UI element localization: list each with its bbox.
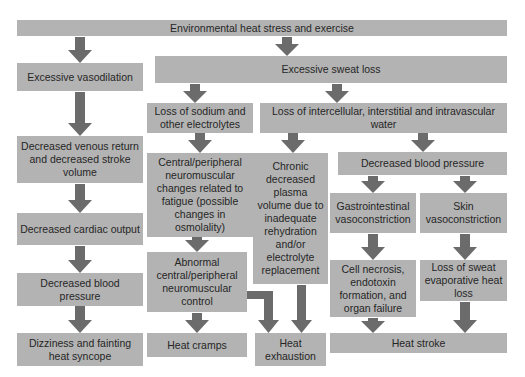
arrow-down-icon — [185, 313, 209, 333]
node-heat-stroke: Heat stroke — [330, 333, 507, 353]
arrow-down-icon — [453, 176, 477, 193]
arrow-down-icon — [453, 234, 477, 260]
arrow-down-icon — [411, 133, 435, 152]
arrow-down-icon — [281, 133, 305, 153]
arrow-down-icon — [68, 246, 92, 273]
node-heat-syncope: Dizziness and fainting heat syncope — [17, 333, 143, 366]
arrow-down-icon — [361, 318, 385, 333]
arrow-down-icon — [68, 184, 92, 213]
node-decreased-cardiac-output: Decreased cardiac output — [17, 213, 143, 245]
node-loss-of-water: Loss of intercellular, interstitial and … — [260, 103, 507, 133]
arrow-down-icon — [68, 37, 92, 63]
node-heat-exhaustion: Heat exhaustion — [255, 333, 326, 366]
arrow-down-icon — [453, 302, 477, 333]
arrow-down-icon — [325, 84, 349, 103]
node-neuromuscular-changes: Central/peripheral neuromuscular changes… — [147, 153, 253, 237]
node-chronic-decreased-plasma: Chronic decreased plasma volume due to i… — [253, 153, 328, 284]
arrow-down-icon — [68, 306, 92, 333]
arrow-down-icon — [188, 133, 212, 153]
node-decreased-blood-pressure-left: Decreased blood pressure — [17, 273, 143, 306]
node-decreased-blood-pressure-right: Decreased blood pressure — [338, 152, 507, 175]
arrow-down-icon — [275, 37, 299, 56]
arrow-down-icon — [291, 285, 313, 333]
arrow-down-icon — [361, 234, 385, 260]
node-abnormal-neuromuscular-control: Abnormal central/peripheral neuromuscula… — [147, 252, 247, 312]
arrow-down-icon — [68, 92, 92, 136]
elbow-arrow-icon — [247, 291, 287, 333]
node-excessive-sweat-loss: Excessive sweat loss — [155, 56, 507, 83]
node-heat-cramps: Heat cramps — [147, 333, 247, 357]
arrow-down-icon — [185, 237, 209, 252]
node-environmental-heat-stress: Environmental heat stress and exercise — [17, 20, 507, 36]
node-gi-vasoconstriction: Gastrointestinal vasoconstriction — [330, 193, 416, 233]
node-skin-vasoconstriction: Skin vasoconstriction — [420, 193, 507, 233]
arrow-down-icon — [183, 84, 207, 103]
node-decreased-venous-return: Decreased venous return and decreased st… — [17, 136, 143, 183]
node-loss-of-sweat-evaporative: Loss of sweat evaporative heat loss — [420, 260, 507, 301]
node-loss-of-sodium: Loss of sodium and other electrolytes — [147, 103, 253, 133]
node-excessive-vasodilation: Excessive vasodilation — [17, 63, 143, 91]
node-cell-necrosis: Cell necrosis, endotoxin formation, and … — [330, 260, 416, 317]
arrow-down-icon — [361, 176, 385, 193]
